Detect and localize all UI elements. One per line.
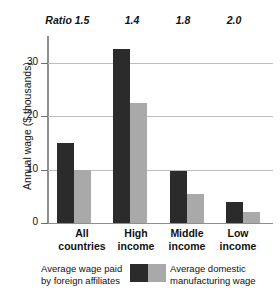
- bar-all-countries-foreign-affiliates: [57, 143, 74, 223]
- legend-entry-domestic-manufacturing: Average domestic manufacturing wage: [170, 263, 278, 286]
- y-tick-mark: [41, 63, 48, 64]
- ratio-row: Ratio 1.5 1.4 1.8 2.0: [0, 14, 280, 30]
- legend-swatch-domestic-manufacturing: [148, 264, 166, 282]
- y-tick-mark: [41, 223, 48, 224]
- legend-swatch-pair: [130, 264, 166, 282]
- legend-label-line-1: Average domestic: [170, 263, 278, 275]
- bar-high-income-foreign-affiliates: [113, 49, 130, 223]
- x-axis-label-low-income: Low income: [206, 227, 270, 252]
- bar-middle-income-domestic-manufacturing: [187, 194, 204, 223]
- x-axis-label-line-1: Low: [206, 227, 270, 240]
- y-tick-label: 20: [20, 109, 38, 120]
- legend-label-line-2: by foreign affiliates: [41, 275, 127, 287]
- ratio-value-high-income: 1.4: [110, 14, 154, 26]
- x-axis-label-line-2: income: [206, 240, 270, 253]
- legend-swatch-foreign-affiliates: [130, 264, 148, 282]
- bar-middle-income-foreign-affiliates: [170, 171, 187, 223]
- bar-low-income-domestic-manufacturing: [243, 212, 260, 223]
- bar-all-countries-domestic-manufacturing: [74, 170, 91, 223]
- ratio-value-all-countries: 1.5: [60, 14, 104, 26]
- y-tick-mark: [41, 170, 48, 171]
- bar-low-income-foreign-affiliates: [226, 202, 243, 223]
- y-tick-label: 10: [20, 163, 38, 174]
- bar-chart: Ratio 1.5 1.4 1.8 2.0 Annual wage ($ tho…: [0, 0, 280, 303]
- ratio-value-low-income: 2.0: [212, 14, 256, 26]
- y-tick-mark: [41, 116, 48, 117]
- chart-legend: Average wage paid by foreign affiliates …: [0, 263, 280, 293]
- ratio-value-middle-income: 1.8: [161, 14, 205, 26]
- bar-high-income-domestic-manufacturing: [130, 103, 147, 223]
- legend-label-line-2: manufacturing wage: [170, 275, 278, 287]
- legend-label-line-1: Average wage paid: [41, 263, 127, 275]
- legend-entry-foreign-affiliates: Average wage paid by foreign affiliates: [41, 263, 127, 286]
- plot-bars: [48, 36, 273, 223]
- y-tick-label: 30: [20, 56, 38, 67]
- y-tick-label: 0: [20, 216, 38, 227]
